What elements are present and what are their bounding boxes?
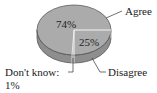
disagree-percent-label: 25% [79,36,99,48]
dont-know-percent-label: 1% [5,79,20,91]
disagree-label: Disagree [108,66,147,78]
agree-label: Agree [125,5,152,17]
dont-know-label: Don't know: [5,66,59,78]
agree-percent-label: 74% [56,18,76,30]
leader-disagree [92,58,106,72]
leader-agree [106,11,122,18]
